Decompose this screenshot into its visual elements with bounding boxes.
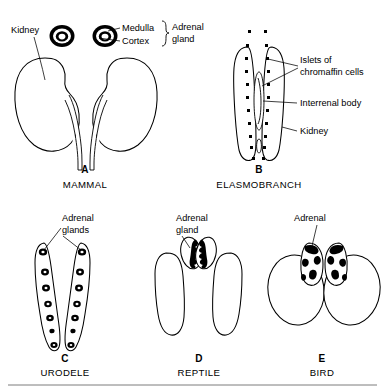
bird-right-adrenal — [325, 243, 347, 285]
bird-left-adrenal — [301, 243, 323, 285]
elasmobranch-interrenal-body-caudal — [257, 139, 262, 153]
elasmobranch-right-kidney — [262, 47, 284, 161]
mammal-adrenal-gland-label-line1: Adrenal — [172, 22, 204, 32]
mammal-left-adrenal — [50, 25, 75, 47]
urodele-adrenal-glands-label-line1: Adrenal — [62, 213, 94, 223]
mammal-adrenal-brace — [162, 21, 169, 46]
panel-c-urodele: Adrenal glands C URODELE — [35, 213, 94, 378]
panel-c-letter: C — [61, 353, 68, 364]
panel-e-bird: Adrenal E BIRD — [263, 213, 384, 378]
reptile-right-kidney — [213, 253, 242, 335]
elasmobranch-kidney-leader — [282, 127, 297, 131]
panel-b-elasmobranch: Islets of chromaffin cells Interrenal bo… — [216, 30, 364, 190]
urodele-leader-left — [44, 228, 61, 250]
mammal-cortex-label: Cortex — [122, 36, 149, 46]
mammal-kidney-label: Kidney — [11, 25, 39, 35]
mammal-right-adrenal — [93, 25, 118, 47]
panel-b-letter: B — [255, 164, 262, 175]
panel-c-caption: URODELE — [40, 367, 89, 378]
mammal-left-kidney — [15, 58, 79, 151]
panel-d-reptile: Adrenal gland D REPTILE — [155, 213, 242, 378]
urodele-right-kidney — [65, 243, 90, 351]
panel-a-mammal: Kidney Medulla Cortex Adrenal gland A MA… — [11, 21, 204, 190]
panel-e-caption: BIRD — [310, 367, 335, 378]
mammal-medulla-label: Medulla — [122, 23, 155, 33]
panel-a-caption: MAMMAL — [63, 179, 108, 190]
mammal-adrenal-gland-label-line2: gland — [172, 34, 194, 44]
figure-adrenal-comparative-anatomy: Kidney Medulla Cortex Adrenal gland A MA… — [0, 0, 385, 392]
bird-adrenal-label: Adrenal — [294, 213, 326, 223]
panel-a-letter: A — [81, 164, 88, 175]
panel-e-letter: E — [319, 353, 326, 364]
panel-b-caption: ELASMOBRANCH — [216, 179, 301, 190]
mammal-right-kidney — [93, 58, 157, 151]
reptile-adrenal-gland-label-line2: gland — [176, 225, 198, 235]
panel-d-caption: REPTILE — [178, 367, 221, 378]
urodele-left-kidney — [35, 243, 60, 351]
reptile-adrenal-gland-label-line1: Adrenal — [176, 213, 208, 223]
urodele-adrenal-glands-label-line2: glands — [62, 225, 89, 235]
elasmobranch-interrenal-label: Interrenal body — [300, 98, 362, 108]
bird-adrenal-leader — [312, 225, 317, 246]
elasmobranch-kidney-label: Kidney — [300, 126, 328, 136]
urodele-leader-right — [63, 236, 81, 250]
elasmobranch-islets-label-line2: chromaffin cells — [300, 67, 364, 77]
panel-d-letter: D — [195, 353, 202, 364]
elasmobranch-islets-label-line1: Islets of — [300, 55, 332, 65]
reptile-left-kidney — [155, 253, 184, 335]
elasmobranch-left-kidney — [234, 47, 256, 161]
